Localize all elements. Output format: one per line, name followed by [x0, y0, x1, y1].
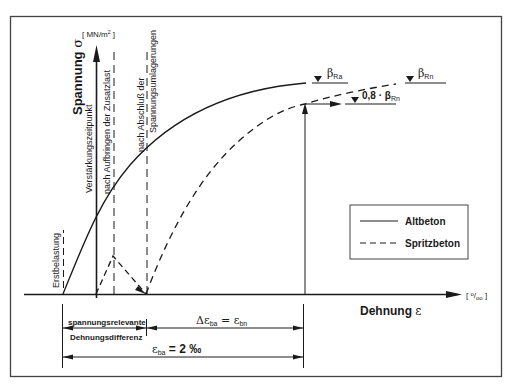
dim-delta-arrow-left-icon — [147, 326, 157, 331]
legend-label-altbeton: Altbeton — [405, 216, 446, 227]
dim-total-arrow-right-icon — [293, 355, 303, 360]
marker-label-zusatzlast: nach Aufbringen der Zusatzlast — [102, 69, 112, 194]
level-beta-rn-marker-icon — [406, 76, 414, 82]
y-axis-unit: [ MN/m2 ] — [82, 29, 115, 39]
dim-relevant-label-1: spannungsrelevante — [68, 318, 146, 327]
curve-spritzbeton — [146, 84, 396, 294]
x-axis-unit: [ o/oo ] — [466, 291, 487, 301]
legend-label-spritzbeton: Spritzbeton — [405, 238, 460, 249]
level-08-beta-rn-label: 0,8 · βRn — [362, 90, 400, 102]
curve-altbeton — [63, 83, 306, 294]
marker-label-verstaerkung: Verstärkungszeitpunkt — [84, 104, 94, 193]
stress-strain-diagram: [ o/oo ] Dehnung ε [ MN/m2 ] Spannung σ … — [0, 0, 511, 384]
dim-relevant-label-2: Dehnungsdifferenz — [70, 333, 142, 342]
x-axis-arrow-icon — [446, 291, 462, 298]
marker-label-umlagerung-1: nach Abschluß der — [136, 77, 146, 152]
level-beta-ra-marker-icon — [314, 76, 322, 82]
y-axis-label: Spannung σ — [70, 39, 85, 115]
dim-total-arrow-left-icon — [63, 355, 73, 360]
level-beta-ra-label: βRa — [327, 67, 342, 80]
failure-right-arrow-icon — [330, 101, 342, 107]
level-beta-rn-label: βRn — [418, 67, 433, 80]
dim-total-label: εba = 2 ‰ — [152, 342, 201, 356]
legend: Altbeton Spritzbeton — [350, 205, 468, 259]
x-axis-label: Dehnung ε — [360, 304, 422, 318]
dim-delta-arrow-right-icon — [293, 326, 303, 331]
marker-label-umlagerung-2: Spannungsumlagerungen — [148, 30, 158, 133]
dim-delta-label: Δεba = εbn — [196, 314, 247, 327]
y-axis-arrow-icon — [93, 45, 100, 62]
level-08-beta-rn-marker-icon — [351, 97, 359, 103]
marker-label-erstbelastung: Erstbelastung — [51, 233, 61, 288]
